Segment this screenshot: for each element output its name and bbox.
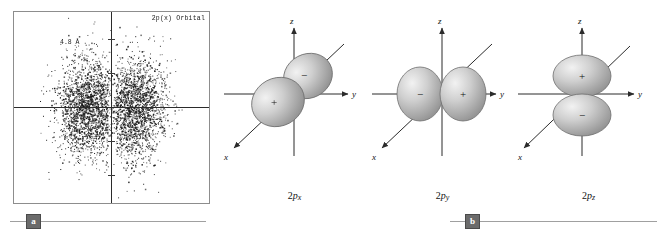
axis-z-label: z — [289, 16, 294, 26]
panel-badge-a: a — [26, 214, 41, 229]
axis-tick — [108, 175, 115, 176]
lobe-negative-sign: − — [579, 109, 585, 121]
orbital-diagram-2py: z y x − + 2py — [370, 8, 515, 203]
lobe-positive-sign: + — [579, 70, 585, 82]
orbital-2py-graphic: z y x − + — [370, 8, 515, 183]
caption-subscript: z — [592, 193, 595, 202]
axis-z-label: z — [577, 16, 582, 26]
plot-title: 2p(x) Orbital — [152, 15, 205, 22]
axis-z-label: z — [437, 16, 442, 26]
lobe-positive-sign: + — [271, 96, 277, 108]
lobe-negative-sign: − — [301, 69, 307, 81]
axis-x-label: x — [517, 152, 522, 162]
axis-tick — [108, 39, 115, 40]
lobe-negative-sign: − — [417, 88, 423, 100]
panel-b-orbital-diagrams: z y x − + 2px z y x — [222, 0, 657, 236]
axis-y-label: y — [499, 89, 504, 99]
orbital-caption-2px: 2px — [222, 190, 367, 202]
axis-x-label: x — [371, 152, 376, 162]
orbital-diagram-2pz: z y x + − 2pz — [516, 8, 657, 203]
lobe-positive-sign: + — [460, 88, 466, 100]
caption-subscript: x — [298, 193, 302, 202]
orbital-2px-graphic: z y x − + — [222, 8, 367, 183]
panel-a-density-plot: 2p(x) Orbital 4.8 Å a — [0, 0, 222, 236]
axis-tick — [108, 141, 115, 142]
axis-x-label: x — [223, 152, 228, 162]
orbital-caption-2pz: 2pz — [516, 190, 657, 202]
scatter-plot-frame: 2p(x) Orbital 4.8 Å — [13, 11, 210, 204]
axis-tick — [108, 73, 115, 74]
axis-y-label: y — [637, 89, 642, 99]
panel-badge-b: b — [465, 214, 480, 229]
panel-b-rule — [450, 221, 657, 222]
caption-subscript: y — [446, 193, 450, 202]
axis-y-label: y — [351, 89, 356, 99]
orbital-diagram-2px: z y x − + 2px — [222, 8, 367, 203]
orbital-2pz-graphic: z y x + − — [516, 8, 657, 183]
scale-annotation: 4.8 Å — [60, 39, 80, 46]
orbital-caption-2py: 2py — [370, 190, 515, 202]
